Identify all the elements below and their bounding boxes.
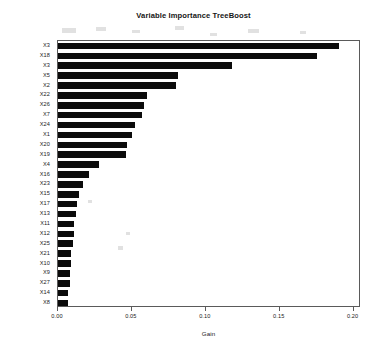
bar	[58, 231, 74, 238]
bar-row	[58, 280, 361, 287]
x-tick-label: 0.00	[51, 313, 62, 319]
x-tick-mark	[279, 307, 280, 311]
bar-row	[58, 161, 361, 168]
chart-title: Variable Importance TreeBoost	[0, 11, 387, 20]
bar-row	[58, 260, 361, 267]
y-axis-labels: X3X18X3X5X2X22X26X7X24X1X20X19X4X16X23X1…	[0, 40, 54, 307]
x-tick-label: 0.05	[125, 313, 136, 319]
bar	[58, 82, 176, 89]
scan-artifact	[175, 26, 184, 30]
bar-row	[58, 142, 361, 149]
scan-artifact	[300, 31, 306, 34]
y-tick-label: X25	[40, 240, 50, 246]
y-tick-label: X24	[40, 121, 50, 127]
bar	[58, 151, 126, 158]
x-axis-tick-marks	[57, 307, 360, 312]
bar	[58, 72, 178, 79]
y-tick-label: X9	[43, 269, 50, 275]
bar-row	[58, 53, 361, 60]
y-tick-label: X23	[40, 180, 50, 186]
bar-row	[58, 221, 361, 228]
bar	[58, 201, 77, 208]
y-tick-label: X2	[43, 82, 50, 88]
bars-layer	[58, 41, 359, 306]
bar	[58, 43, 339, 50]
bar	[58, 240, 73, 247]
bar	[58, 300, 68, 307]
x-axis-title: Gain	[57, 330, 360, 337]
y-tick-label: X20	[40, 141, 50, 147]
bar-row	[58, 211, 361, 218]
y-tick-label: X22	[40, 91, 50, 97]
bar	[58, 102, 144, 109]
bar-row	[58, 102, 361, 109]
y-tick-label: X14	[40, 289, 50, 295]
x-tick-label: 0.20	[347, 313, 358, 319]
y-tick-label: X18	[40, 52, 50, 58]
y-tick-label: X27	[40, 279, 50, 285]
x-tick-label: 0.15	[273, 313, 284, 319]
y-tick-label: X17	[40, 200, 50, 206]
scan-artifact	[96, 27, 106, 31]
y-tick-label: X15	[40, 190, 50, 196]
y-tick-label: X16	[40, 171, 50, 177]
y-tick-label: X1	[43, 131, 50, 137]
bar-row	[58, 92, 361, 99]
x-tick-mark	[353, 307, 354, 311]
bar-row	[58, 201, 361, 208]
bar	[58, 112, 142, 119]
bar-row	[58, 171, 361, 178]
bar	[58, 62, 232, 69]
x-tick-mark	[57, 307, 58, 311]
variable-importance-chart: Variable Importance TreeBoost X3X18X3X5X…	[0, 0, 387, 357]
bar-row	[58, 300, 361, 307]
bar-row	[58, 122, 361, 129]
y-tick-label: X26	[40, 101, 50, 107]
bar-row	[58, 82, 361, 89]
bar	[58, 260, 71, 267]
plot-area	[57, 40, 360, 307]
y-tick-label: X8	[43, 299, 50, 305]
bar-row	[58, 231, 361, 238]
bar-row	[58, 240, 361, 247]
bar-row	[58, 132, 361, 139]
bar	[58, 181, 83, 188]
x-axis-tick-labels: 0.000.050.100.150.20	[0, 313, 387, 323]
bar-row	[58, 43, 361, 50]
bar-row	[58, 191, 361, 198]
y-tick-label: X5	[43, 72, 50, 78]
bar	[58, 132, 132, 139]
y-tick-label: X13	[40, 210, 50, 216]
bar	[58, 53, 317, 60]
scan-artifact	[210, 33, 217, 36]
y-tick-label: X21	[40, 250, 50, 256]
bar	[58, 250, 71, 257]
y-tick-label: X11	[40, 220, 50, 226]
bar-row	[58, 250, 361, 257]
y-tick-label: X19	[40, 151, 50, 157]
bar	[58, 142, 127, 149]
bar	[58, 211, 76, 218]
bar	[58, 122, 135, 129]
bar-row	[58, 290, 361, 297]
scan-artifact	[132, 30, 140, 33]
bar-row	[58, 151, 361, 158]
scan-artifact	[62, 28, 76, 33]
bar-row	[58, 181, 361, 188]
bar	[58, 221, 74, 228]
y-tick-label: X4	[43, 161, 50, 167]
y-tick-label: X3	[43, 62, 50, 68]
x-tick-mark	[205, 307, 206, 311]
bar	[58, 270, 70, 277]
y-tick-label: X7	[43, 111, 50, 117]
bar	[58, 280, 70, 287]
bar	[58, 191, 79, 198]
bar	[58, 290, 68, 297]
bar-row	[58, 72, 361, 79]
y-tick-label: X12	[40, 230, 50, 236]
bar	[58, 92, 147, 99]
bar-row	[58, 62, 361, 69]
scan-artifact	[248, 29, 259, 33]
bar	[58, 171, 89, 178]
x-tick-mark	[131, 307, 132, 311]
